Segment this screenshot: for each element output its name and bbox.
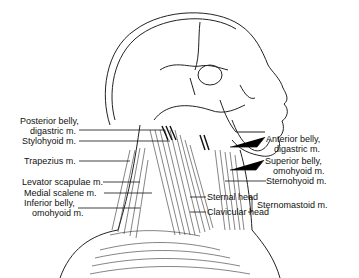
- label-line: Anterior belly,: [266, 134, 320, 144]
- label-sternomastoid: Sternomastoid m.: [257, 200, 328, 210]
- label-posterior-belly-digastric: Posterior belly, digastric m.: [20, 116, 80, 136]
- label-line: digastric m.: [266, 144, 320, 154]
- label-medial-scalene: Medial scalene m.: [24, 188, 97, 198]
- label-inferior-belly-omohyoid: Inferior belly, omohyoid m.: [24, 198, 84, 218]
- label-line: omohyoid m.: [24, 208, 84, 218]
- label-superior-belly-omohyoid: Superior belly, omohyoid m.: [265, 156, 325, 176]
- label-stylohyoid: Stylohyoid m.: [22, 136, 76, 146]
- label-levator-scapulae: Levator scapulae m.: [22, 177, 103, 187]
- label-sternohyoid: Sternohyoid m.: [266, 176, 327, 186]
- label-trapezius: Trapezius m.: [24, 156, 76, 166]
- label-line: digastric m.: [20, 126, 80, 136]
- label-anterior-belly-digastric: Anterior belly, digastric m.: [266, 134, 320, 154]
- label-line: Posterior belly,: [20, 116, 80, 126]
- label-line: omohyoid m.: [265, 166, 325, 176]
- label-line: Superior belly,: [265, 156, 325, 166]
- skull-outline: [105, 13, 287, 156]
- label-line: Inferior belly,: [24, 198, 84, 208]
- label-sternal-head: Sternal head: [207, 192, 258, 202]
